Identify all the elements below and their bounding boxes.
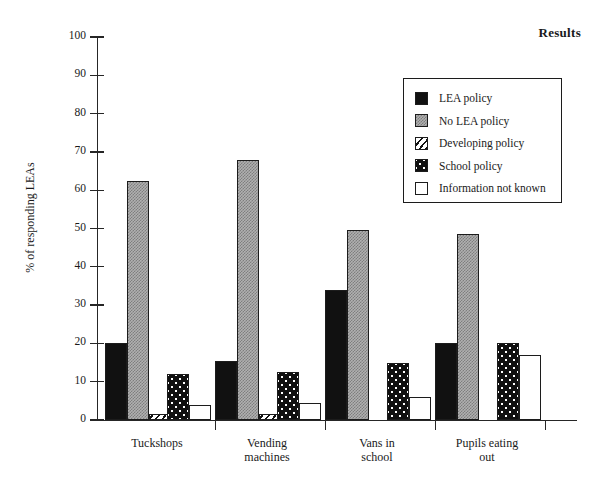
legend-swatch-lea-policy-icon (415, 92, 428, 105)
x-category-label-pupils-eating-out: Pupils eatingout (412, 436, 562, 464)
y-tick-label-10: 10 (52, 374, 86, 386)
legend-item-developing-policy: Developing policy (415, 132, 524, 154)
bar-tuckshops-school-policy (167, 374, 189, 420)
y-tick-label-30: 30 (52, 297, 86, 309)
y-tick-label-70: 70 (52, 144, 86, 156)
bar-vans-in-school-school-policy (387, 363, 409, 420)
bar-chart-figure: Results % of responding LEAs 01020304050… (0, 0, 595, 478)
x-tick-separator-0 (215, 420, 216, 430)
bar-vans-in-school-no-lea-policy (347, 230, 369, 420)
y-tick-label-100: 100 (52, 29, 86, 41)
y-axis-label: % of responding LEAs (23, 128, 38, 308)
bar-pupils-eating-out-school-policy (497, 343, 519, 420)
y-tick-label-0: 0 (52, 412, 86, 424)
x-category-label-line: Pupils eating (412, 436, 562, 450)
y-tick-label-40: 40 (52, 259, 86, 271)
bar-tuckshops-lea-policy (105, 343, 127, 420)
legend-swatch-school-policy-icon (415, 159, 428, 172)
bar-vending-machines-no-lea-policy (237, 160, 259, 420)
legend-label: LEA policy (439, 92, 492, 104)
legend-label: Developing policy (439, 137, 524, 149)
y-tick-label-90: 90 (52, 67, 86, 79)
bar-vans-in-school-information-not-known (409, 397, 431, 420)
bar-vending-machines-lea-policy (215, 361, 237, 420)
x-tick-separator-3 (545, 420, 546, 430)
bar-pupils-eating-out-information-not-known (519, 355, 541, 420)
legend-item-lea-policy: LEA policy (415, 87, 492, 109)
legend-swatch-information-not-known-icon (415, 182, 428, 195)
bar-vending-machines-information-not-known (299, 403, 321, 420)
legend-item-no-lea-policy: No LEA policy (415, 110, 509, 132)
bar-vans-in-school-lea-policy (325, 290, 347, 420)
bar-vending-machines-school-policy (277, 372, 299, 420)
legend-label: No LEA policy (439, 115, 509, 127)
legend-label: Information not known (439, 182, 546, 194)
bar-pupils-eating-out-lea-policy (435, 343, 457, 420)
x-category-label-line: out (412, 450, 562, 464)
legend-item-school-policy: School policy (415, 155, 503, 177)
y-tick-label-60: 60 (52, 182, 86, 194)
legend-item-information-not-known: Information not known (415, 177, 546, 199)
x-axis-line (90, 420, 577, 421)
legend: LEA policyNo LEA policyDeveloping policy… (403, 78, 562, 203)
bar-tuckshops-information-not-known (189, 405, 211, 420)
legend-swatch-no-lea-policy-icon (415, 114, 428, 127)
y-tick-label-20: 20 (52, 335, 86, 347)
legend-label: School policy (439, 160, 503, 172)
y-tick-label-80: 80 (52, 106, 86, 118)
x-tick-separator-2 (435, 420, 436, 430)
x-tick-separator-1 (325, 420, 326, 430)
bar-tuckshops-no-lea-policy (127, 181, 149, 420)
legend-swatch-developing-policy-icon (415, 137, 428, 150)
y-tick-label-50: 50 (52, 221, 86, 233)
bar-pupils-eating-out-no-lea-policy (457, 234, 479, 420)
